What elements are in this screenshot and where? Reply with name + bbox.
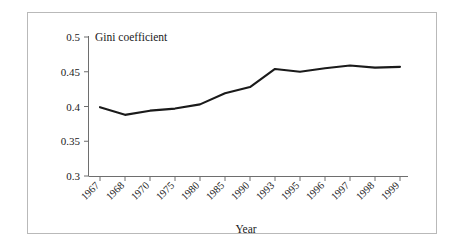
y-tick-label-3: 0.35 bbox=[61, 135, 81, 147]
y-tick-label-4: 0.3 bbox=[66, 170, 80, 182]
chart-canvas: 0.5 0.45 0.4 0.35 0.3 196719681970197519… bbox=[0, 0, 464, 246]
x-axis: 1967196819701975198019851990199319951996… bbox=[79, 177, 408, 203]
x-tick-label-11: 1998 bbox=[354, 180, 377, 203]
series-line-gini bbox=[100, 65, 400, 114]
y-tick-label-1: 0.45 bbox=[61, 66, 81, 78]
x-axis-title: Year bbox=[235, 223, 256, 235]
x-tick-label-6: 1990 bbox=[229, 180, 252, 203]
x-tick-label-10: 1997 bbox=[329, 180, 352, 203]
y-tick-label-0: 0.5 bbox=[66, 31, 80, 43]
y-tick-label-2: 0.4 bbox=[66, 101, 80, 113]
x-tick-label-2: 1970 bbox=[129, 180, 152, 203]
x-tick-marks bbox=[100, 177, 400, 182]
x-tick-label-9: 1996 bbox=[304, 180, 327, 203]
x-tick-label-12: 1999 bbox=[379, 180, 402, 203]
x-tick-labels: 1967196819701975198019851990199319951996… bbox=[79, 180, 402, 203]
plot-title: Gini coefficient bbox=[95, 31, 168, 43]
x-tick-label-5: 1985 bbox=[204, 180, 227, 203]
y-axis: 0.5 0.45 0.4 0.35 0.3 bbox=[61, 31, 89, 182]
x-tick-label-4: 1980 bbox=[179, 180, 202, 203]
x-tick-label-8: 1995 bbox=[279, 180, 302, 203]
x-tick-label-3: 1975 bbox=[154, 180, 177, 203]
x-tick-label-0: 1967 bbox=[79, 180, 102, 203]
chart-figure: 0.5 0.45 0.4 0.35 0.3 196719681970197519… bbox=[0, 0, 464, 246]
x-tick-label-1: 1968 bbox=[104, 180, 127, 203]
x-tick-label-7: 1993 bbox=[254, 180, 277, 203]
